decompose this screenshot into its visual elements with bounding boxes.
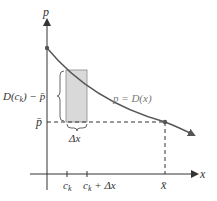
curve-label: p = D(x) [112, 92, 152, 105]
height-label: D(ck) − p̄ [2, 90, 46, 104]
equilibrium-dot [163, 120, 167, 124]
diagram: p x p = D(x) D(ck) − p̄ p̄ Δx ck ck + Δx… [0, 0, 217, 201]
width-brace-icon [67, 124, 87, 131]
x-axis-label: x [199, 167, 206, 181]
tick-label-c-k: ck [63, 179, 72, 193]
tick-label-x-bar: x̄ [160, 178, 167, 192]
tick-label-c-k-plus-dx: ck + Δx [83, 179, 116, 193]
height-brace-icon [57, 71, 64, 121]
width-label: Δx [68, 132, 80, 144]
p-bar-label: p̄ [35, 115, 42, 129]
y-axis-label: p [42, 5, 49, 19]
curve-start-dot [45, 46, 49, 50]
